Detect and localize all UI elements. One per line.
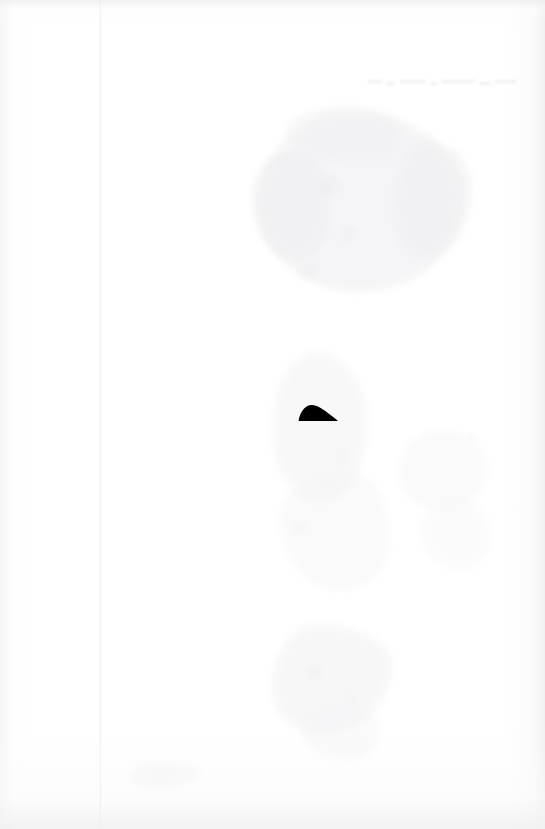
ghost-blob-mid-lower bbox=[280, 470, 390, 590]
ghost-blob-upper-crown bbox=[286, 106, 406, 166]
ghost-blob-lower-center bbox=[272, 624, 392, 734]
faint-text-segment bbox=[441, 80, 475, 83]
ghost-speck-1 bbox=[318, 174, 340, 196]
ghost-blob-upper-center bbox=[258, 112, 464, 292]
ghost-blob-lower-tail bbox=[300, 700, 380, 760]
ghost-speck-5 bbox=[266, 196, 281, 211]
ghost-speck-10 bbox=[466, 432, 478, 444]
faint-text-segment bbox=[479, 82, 491, 85]
ghost-speck-7 bbox=[292, 520, 306, 534]
ghost-speck-3 bbox=[300, 262, 318, 280]
ghost-speck-2 bbox=[340, 226, 356, 242]
vertical-fold-line bbox=[99, 0, 102, 829]
ghost-blob-bottom-left bbox=[130, 762, 200, 788]
faint-text-segment bbox=[386, 82, 395, 85]
faint-text-segment bbox=[400, 80, 426, 83]
ghost-blob-upper-right-lobe bbox=[392, 140, 472, 260]
ghost-blob-right-lower bbox=[420, 500, 490, 570]
faint-text-segment bbox=[430, 82, 437, 85]
ghost-blob-right-mid bbox=[398, 430, 488, 510]
black-dome-shape bbox=[298, 404, 338, 422]
ghost-speck-9 bbox=[344, 690, 357, 703]
faint-text-segment bbox=[368, 80, 382, 83]
faint-text-segment bbox=[495, 80, 516, 83]
black-dome-mark bbox=[298, 404, 338, 422]
paper-background-tint bbox=[0, 0, 545, 829]
ghost-blob-mid-center bbox=[272, 352, 368, 502]
faint-illegible-text-line bbox=[368, 76, 518, 90]
ghost-speck-8 bbox=[306, 664, 322, 680]
ghost-speck-6 bbox=[334, 448, 351, 465]
ghost-blob-upper-left-lobe bbox=[252, 150, 330, 260]
scanned-page bbox=[0, 0, 545, 829]
ghost-speck-4 bbox=[432, 208, 446, 222]
